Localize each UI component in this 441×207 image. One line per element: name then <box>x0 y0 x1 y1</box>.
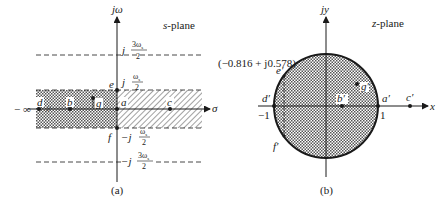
svg-text:j: j <box>120 76 125 88</box>
svg-text:a: a <box>121 96 127 108</box>
svg-text:g: g <box>96 97 102 109</box>
sigma-axis-label: σ <box>212 102 218 114</box>
svg-text:a′: a′ <box>382 92 391 104</box>
svg-text:2: 2 <box>142 138 146 147</box>
s-to-z-mapping-diagram: // jω σ − ∞ s-plane j 3ωs 2 j ωs 2 −j ωs… <box>0 0 441 207</box>
svg-text:c′: c′ <box>406 91 414 103</box>
svg-text:ωs: ωs <box>140 127 147 137</box>
svg-text:e: e <box>109 78 114 90</box>
label-neg-3ws-half: −j 3ωs 2 <box>121 151 155 171</box>
label-pos-ws-half: j ωs 2 <box>120 72 143 92</box>
svg-text:c: c <box>167 96 172 108</box>
svg-text:3ωs: 3ωs <box>138 151 149 161</box>
svg-text:g′: g′ <box>361 80 370 92</box>
svg-text:f′: f′ <box>273 140 279 152</box>
neg-infinity-label: − ∞ <box>14 103 31 115</box>
e-prime-coordinate-annotation: (−0.816 + j0.578) <box>218 57 296 70</box>
s-plane-title: s-plane <box>163 19 195 31</box>
point-g: g <box>91 96 103 109</box>
svg-text:b: b <box>67 96 73 108</box>
svg-text:−j: −j <box>121 155 131 167</box>
svg-text:b′: b′ <box>337 92 346 104</box>
svg-text:d: d <box>37 96 43 108</box>
x-axis-label: x <box>429 100 435 112</box>
svg-text:2: 2 <box>135 83 139 92</box>
svg-text:ωs: ωs <box>133 72 140 82</box>
s-plane-panel: // jω σ − ∞ s-plane j 3ωs 2 j ωs 2 −j ωs… <box>14 3 218 197</box>
label-pos-3ws-half: j 3ωs 2 <box>120 40 147 61</box>
point-c-prime: c′ <box>406 91 414 108</box>
svg-text:e′: e′ <box>276 64 284 76</box>
svg-text:d′: d′ <box>262 92 271 104</box>
svg-text:j: j <box>120 44 125 56</box>
tick-pos-one: 1 <box>380 109 386 121</box>
caption-b: (b) <box>320 184 333 197</box>
svg-text:2: 2 <box>136 52 140 61</box>
jy-axis-label: jy <box>319 3 329 15</box>
svg-text:3ωs: 3ωs <box>132 40 143 50</box>
axis-break-mark: // <box>45 105 51 114</box>
z-plane-title: z-plane <box>371 17 404 29</box>
jw-axis-label: jω <box>110 3 123 15</box>
svg-text:2: 2 <box>142 162 146 171</box>
point-f-prime: f′ <box>273 135 286 153</box>
z-plane-panel: jy x z-plane −1 1 (−0.816 + j0.578) a′ b… <box>218 3 435 197</box>
label-neg-ws-half: −j ωs 2 <box>121 127 150 147</box>
svg-text:−j: −j <box>121 131 131 143</box>
tick-neg-one: −1 <box>258 109 270 121</box>
svg-text:f: f <box>108 131 113 143</box>
caption-a: (a) <box>111 184 124 197</box>
